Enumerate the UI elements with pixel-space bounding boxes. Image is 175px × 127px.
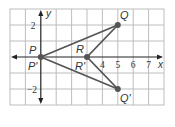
- label-q: Q: [120, 9, 129, 21]
- point-p: [38, 54, 44, 60]
- label-p-prime: P': [28, 60, 38, 72]
- label-r-prime: R': [75, 60, 86, 72]
- x-axis-label: x: [157, 59, 164, 70]
- y-axis-label: y: [45, 8, 52, 19]
- point-q: [115, 22, 121, 28]
- y-axis-up-arrow-icon: [38, 10, 43, 16]
- x-tick-6: 6: [131, 60, 136, 70]
- y-tick-neg2: −2: [27, 85, 37, 95]
- y-tick-2: 2: [31, 21, 36, 31]
- label-p: P: [29, 44, 37, 56]
- x-axis-left-arrow-icon: [11, 55, 17, 60]
- label-q-prime: Q': [120, 92, 132, 104]
- x-tick-7: 7: [146, 60, 151, 70]
- label-r: R: [76, 43, 84, 55]
- x-tick-5: 5: [115, 60, 120, 70]
- y-axis-down-arrow-icon: [38, 98, 43, 104]
- x-tick-4: 4: [100, 60, 105, 70]
- coordinate-plane: 2 −2 4 5 6 7 x y P P' Q Q' R R': [0, 0, 175, 127]
